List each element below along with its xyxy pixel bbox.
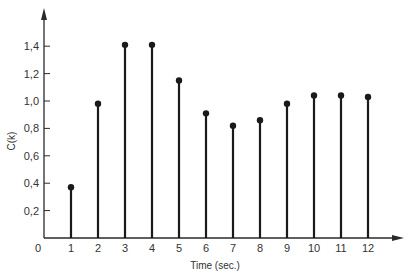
y-tick-label: 0,2 [24,205,39,217]
y-tick-label: 0,4 [24,177,39,189]
stem-marker [68,184,74,190]
y-tick-label: 0,8 [24,122,39,134]
stem-marker [338,92,344,98]
x-tick-label: 6 [203,242,209,254]
stem-plot: 0,20,40,60,81,01,21,4123456789101112 C(k… [0,0,413,279]
y-tick-label: 0,6 [24,150,39,162]
stem-marker [176,77,182,83]
x-axis-label: Time (sec.) [190,260,240,271]
origin-label: 0 [35,242,41,254]
stem-marker [122,42,128,48]
x-tick-label: 8 [257,242,263,254]
stem-marker [365,94,371,100]
x-tick-label: 11 [335,242,346,254]
stem-marker [230,122,236,128]
x-tick-label: 9 [284,242,290,254]
stem-marker [203,110,209,116]
x-axis-arrow-icon [392,235,404,241]
stem-marker [257,117,263,123]
y-tick-label: 1,0 [24,95,39,107]
y-axis-arrow-icon [41,8,47,20]
y-axis-label: C(k) [6,132,17,151]
stem-marker [311,92,317,98]
y-tick-label: 1,2 [24,68,39,80]
x-tick-label: 12 [362,242,374,254]
data-stems [68,42,371,238]
stem-marker [284,101,290,107]
stem-marker [95,101,101,107]
y-tick-label: 1,4 [24,40,39,52]
x-tick-label: 1 [68,242,74,254]
x-tick-label: 3 [122,242,128,254]
x-tick-label: 10 [308,242,320,254]
x-tick-label: 7 [230,242,236,254]
x-tick-label: 4 [149,242,155,254]
x-tick-label: 5 [176,242,182,254]
stem-marker [149,42,155,48]
x-tick-label: 2 [95,242,101,254]
axes: 0,20,40,60,81,01,21,4123456789101112 [24,8,404,254]
